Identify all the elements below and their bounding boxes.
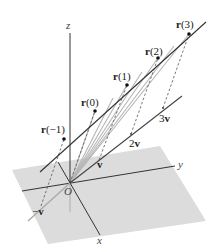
point-r1 xyxy=(125,83,129,87)
z-axis-label: z xyxy=(65,19,71,31)
label-r2: r(2) xyxy=(145,45,163,58)
label-2v: 2v xyxy=(129,137,141,149)
label-3v: 3v xyxy=(159,112,171,124)
label-v: v xyxy=(97,158,103,170)
x-axis-label: x xyxy=(96,234,102,246)
point-r0 xyxy=(93,109,97,113)
y-axis-label: y xyxy=(177,158,183,170)
origin-label: O xyxy=(64,185,72,197)
label-r0: r(0) xyxy=(81,96,99,109)
point-r-minus1 xyxy=(62,137,66,141)
label-r1: r(1) xyxy=(113,70,131,83)
point-r3 xyxy=(187,32,191,36)
label-r-minus1: r(−1) xyxy=(41,123,65,136)
label-r3: r(3) xyxy=(176,18,194,31)
label-minus-v: −v xyxy=(32,205,44,217)
xy-plane xyxy=(12,146,206,244)
vector-line-diagram: z y x O r(−1) r(0) r(1) r(2) r(3) −v v 2… xyxy=(0,0,218,246)
